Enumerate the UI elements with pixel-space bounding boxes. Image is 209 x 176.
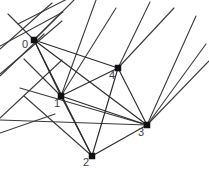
graph-node-0[interactable] xyxy=(31,37,37,43)
graph-node-2[interactable] xyxy=(89,153,95,159)
ray-line-16 xyxy=(0,60,62,118)
node-label-0: 0 xyxy=(22,38,28,50)
geometric-graph-figure: 01234 xyxy=(0,0,209,176)
graph-node-3[interactable] xyxy=(144,122,150,128)
edge-2-4 xyxy=(92,68,118,156)
ray-line-15 xyxy=(147,16,196,125)
node-label-2: 2 xyxy=(83,156,89,168)
edge-0-3 xyxy=(34,40,147,125)
edge-lines-group xyxy=(34,40,147,156)
ray-line-13 xyxy=(147,61,209,125)
node-label-3: 3 xyxy=(138,126,144,138)
ray-line-11 xyxy=(118,8,174,68)
graph-nodes-group xyxy=(31,37,150,159)
edge-0-4 xyxy=(34,40,118,68)
ray-line-14 xyxy=(147,44,206,125)
figure-canvas: 01234 xyxy=(0,0,209,176)
ray-line-17 xyxy=(0,114,55,133)
node-label-4: 4 xyxy=(109,69,115,81)
ray-lines-group xyxy=(0,0,209,156)
ray-line-12 xyxy=(118,2,150,68)
graph-node-4[interactable] xyxy=(115,65,121,71)
node-label-1: 1 xyxy=(54,97,60,109)
